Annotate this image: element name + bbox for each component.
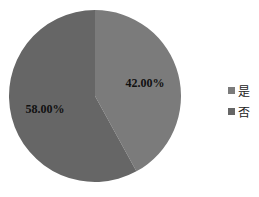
- legend-item-no: 否: [228, 101, 250, 122]
- slice-percent-label: 42.00%: [125, 76, 164, 91]
- pie-chart: [0, 0, 259, 197]
- slice-percent-label: 58.00%: [26, 101, 65, 116]
- chart-legend: 是 否: [228, 80, 250, 122]
- legend-label: 是: [238, 82, 250, 100]
- legend-swatch-icon: [228, 87, 235, 94]
- legend-swatch-icon: [228, 108, 235, 115]
- legend-label: 否: [238, 103, 250, 121]
- legend-item-yes: 是: [228, 80, 250, 101]
